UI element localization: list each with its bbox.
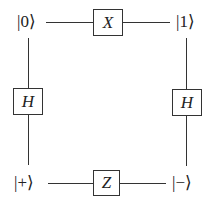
state-top-right: |1⟩ bbox=[176, 13, 195, 30]
gate-z: Z bbox=[93, 170, 120, 196]
state-top-left: |0⟩ bbox=[17, 13, 36, 30]
gate-x: X bbox=[93, 9, 123, 36]
edge-top-left bbox=[46, 22, 93, 23]
edge-right-top bbox=[186, 38, 187, 89]
state-bottom-right: |−⟩ bbox=[172, 174, 192, 191]
edge-left-bottom bbox=[28, 115, 29, 165]
edge-bottom-left bbox=[48, 183, 93, 184]
gate-h-right: H bbox=[172, 89, 202, 116]
edge-top-right bbox=[123, 22, 170, 23]
gate-h-left: H bbox=[13, 88, 43, 115]
edge-left-top bbox=[28, 38, 29, 88]
edge-right-bottom bbox=[186, 116, 187, 166]
edge-bottom-right bbox=[120, 183, 166, 184]
state-bottom-left: |+⟩ bbox=[14, 174, 34, 191]
